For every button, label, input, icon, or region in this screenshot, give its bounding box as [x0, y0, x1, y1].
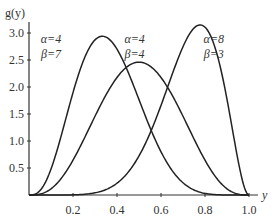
annotation-alpha: α=4 — [41, 32, 61, 46]
x-tick-label: 1.0 — [242, 203, 257, 217]
y-tick-label: 0.5 — [9, 161, 24, 175]
annotations: α=4β=7α=4β=4α=8β=3 — [40, 32, 224, 61]
x-tick-label: 0.6 — [154, 203, 169, 217]
y-tick-label: 1.0 — [9, 134, 24, 148]
x-axis-label: y — [261, 188, 268, 202]
y-tick-label: 2.0 — [9, 80, 24, 94]
annotation-beta: β=7 — [40, 47, 62, 61]
annotation-alpha: α=4 — [124, 32, 144, 46]
y-tick-label: 1.5 — [9, 107, 24, 121]
annotation-beta: β=4 — [124, 47, 145, 61]
x-tick-label: 0.2 — [66, 203, 81, 217]
y-tick-label: 2.5 — [9, 53, 24, 67]
annotation-beta: β=3 — [203, 47, 224, 61]
x-tick-label: 0.4 — [110, 203, 125, 217]
beta-density-chart: 0.20.40.60.81.00.51.01.52.02.53.0yg(y) α… — [0, 0, 272, 219]
y-axis-label: g(y) — [5, 6, 25, 20]
annotation-alpha: α=8 — [204, 32, 224, 46]
y-tick-label: 3.0 — [9, 26, 24, 40]
x-tick-label: 0.8 — [198, 203, 213, 217]
curve--4-4 — [29, 62, 249, 195]
